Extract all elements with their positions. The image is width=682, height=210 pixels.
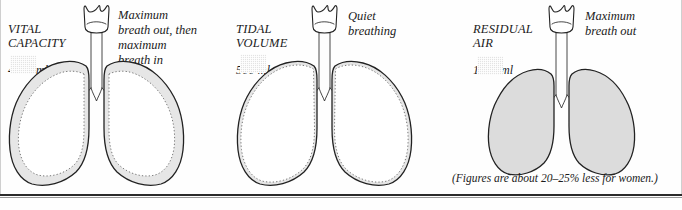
left-lung-shape: [9, 62, 89, 186]
larynx-icon: [312, 6, 337, 33]
right-lung-inner-dotted: [335, 65, 409, 182]
lungs-diagram-vital-capacity: [0, 0, 227, 194]
trachea-tube: [319, 33, 330, 88]
bottom-divider-rule: [0, 194, 682, 196]
left-lung-inner-dotted: [241, 65, 315, 182]
larynx-icon: [84, 6, 109, 33]
panel-tidal-volume: TIDAL VOLUME 500 ml Quiet breathing: [228, 0, 455, 194]
left-lung-outline: [488, 70, 554, 175]
lungs-diagram-tidal-volume: [228, 0, 455, 194]
lungs-diagram-residual-air: [455, 0, 682, 194]
right-lung-shape: [332, 62, 412, 186]
lung-volumes-figure: VITAL CAPACITY 4000 ml Maximum breath ou…: [0, 0, 682, 210]
right-lung-outline: [569, 70, 635, 175]
panel-residual-air: RESIDUAL AIR 1500 ml Maximum breath out: [455, 0, 682, 194]
trachea-tube: [556, 33, 567, 95]
panel-vital-capacity: VITAL CAPACITY 4000 ml Maximum breath ou…: [0, 0, 227, 194]
bottom-divider-rule-shadow: [0, 197, 682, 198]
carina: [556, 95, 567, 108]
carina: [319, 88, 330, 101]
women-figures-footnote: (Figures are about 20–25% less for women…: [452, 172, 658, 184]
carina: [91, 88, 102, 101]
left-lung-shape: [237, 62, 317, 186]
left-lung-shape: [488, 70, 554, 175]
trachea-tube: [91, 33, 102, 88]
right-lung-shape: [569, 70, 635, 175]
larynx-icon: [549, 6, 574, 33]
right-lung-shape: [104, 62, 184, 186]
